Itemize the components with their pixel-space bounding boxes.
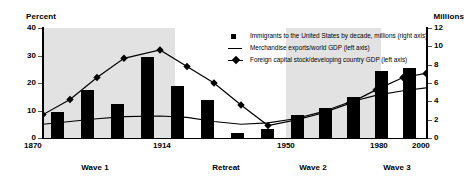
- bar-1940s: [261, 129, 274, 138]
- left-tick-label: 10: [18, 107, 36, 115]
- right-tick-label: 6: [434, 79, 450, 87]
- right-tick-mark: [428, 28, 432, 29]
- legend-item-foreign-capital: Foreign capital stock/developing country…: [228, 54, 433, 66]
- bar-1960s: [319, 108, 332, 138]
- left-tick-label: 20: [18, 79, 36, 87]
- right-tick-label: 2: [434, 116, 450, 124]
- right-tick-label: 4: [434, 97, 450, 105]
- x-tick-label-1914: 1914: [153, 141, 171, 150]
- bar-1990s: [403, 68, 416, 138]
- bar-1920s: [201, 100, 214, 138]
- period-label-wave-1: Wave 1: [60, 163, 130, 172]
- legend-label: Merchandise exports/world GDP (left axis…: [250, 42, 370, 54]
- x-tick-label-1950: 1950: [277, 141, 295, 150]
- left-tick-mark: [38, 138, 42, 139]
- left-axis-line: [42, 27, 44, 139]
- x-tick-label-2000: 2000: [412, 141, 430, 150]
- right-tick-label: 0: [434, 134, 450, 142]
- x-axis-line: [43, 138, 426, 139]
- legend-item-merchandise-exports: Merchandise exports/world GDP (left axis…: [228, 42, 433, 54]
- bar-1890s: [111, 104, 124, 138]
- left-tick-mark: [38, 28, 42, 29]
- period-label-retreat: Retreat: [196, 163, 256, 172]
- bar-1900s: [141, 57, 154, 138]
- right-tick-label: 10: [434, 42, 450, 50]
- diamond-line-marker-icon: [228, 54, 246, 66]
- period-label-wave-2: Wave 2: [278, 163, 348, 172]
- x-tick-label-1980: 1980: [370, 141, 388, 150]
- bar-1970s: [347, 97, 360, 138]
- chart-legend: Immigrants to the United States by decad…: [228, 30, 433, 66]
- bar-1880s: [81, 90, 94, 138]
- left-tick-mark: [38, 56, 42, 57]
- bar-1950s: [291, 115, 304, 138]
- legend-label: Immigrants to the United States by decad…: [250, 30, 427, 42]
- right-tick-label: 8: [434, 61, 450, 69]
- right-tick-mark: [428, 120, 432, 121]
- left-tick-label: 40: [18, 24, 36, 32]
- square-marker-icon: [228, 30, 246, 42]
- legend-item-immigrants: Immigrants to the United States by decad…: [228, 30, 433, 42]
- line-marker-icon: [228, 42, 246, 54]
- right-tick-mark: [428, 83, 432, 84]
- left-tick-mark: [38, 83, 42, 84]
- chart-figure: Percent Millions: [0, 0, 470, 189]
- bar-1870s: [51, 112, 64, 138]
- bar-1980s: [375, 71, 388, 138]
- right-axis-title: Millions: [433, 12, 464, 21]
- left-axis-title: Percent: [26, 12, 56, 21]
- x-tick-label-1870: 1870: [24, 141, 42, 150]
- left-tick-label: 30: [18, 52, 36, 60]
- right-tick-mark: [428, 101, 432, 102]
- bar-1910s: [171, 86, 184, 138]
- right-tick-mark: [428, 138, 432, 139]
- right-tick-label: 12: [434, 24, 450, 32]
- period-label-wave-3: Wave 3: [362, 163, 432, 172]
- legend-label: Foreign capital stock/developing country…: [250, 54, 407, 66]
- left-tick-mark: [38, 111, 42, 112]
